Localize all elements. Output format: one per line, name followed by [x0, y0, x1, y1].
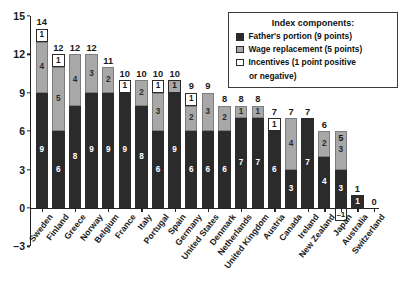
bar-segment-wage-replacement: 5 [52, 67, 64, 131]
bar-segment-wage-replacement: 1 [235, 106, 247, 119]
bar-norway[interactable]: 9312 [85, 54, 97, 208]
legend-item-fathers-portion: Father's portion (9 points) [236, 32, 390, 42]
bar-segment-fathers-portion: 8 [135, 106, 147, 208]
bar-total-label: 8 [239, 94, 244, 104]
bar-segment-incentives: 1 [185, 93, 197, 106]
bar-belgium[interactable]: 9211 [102, 67, 114, 208]
bar-segment-wage-replacement: 4 [36, 42, 48, 93]
bar-total-label: 10 [136, 69, 146, 79]
bar-australia[interactable]: 11 [351, 195, 363, 208]
bar-segment-wage-replacement: 2 [218, 106, 230, 132]
bar-total-label: 10 [169, 69, 179, 79]
legend-item-wage-replacement: Wage replacement (5 points) [236, 45, 390, 55]
bar-segment-wage-replacement: 2 [135, 80, 147, 106]
bar-segment-fathers-portion: 6 [52, 131, 64, 208]
bar-segment-incentives: 1 [36, 29, 48, 42]
bar-segment-incentives: 1 [52, 54, 64, 67]
bar-total-label: 8 [255, 94, 260, 104]
bar-segment-fathers-portion: 4 [318, 157, 330, 208]
bar-total-label: 9 [205, 81, 210, 91]
legend-label-wage-replacement: Wage replacement (5 points) [249, 45, 391, 55]
bar-sweden[interactable]: 94114 [36, 29, 48, 208]
bar-segment-fathers-portion: 6 [202, 131, 214, 208]
bar-segment-wage-replacement: 4 [69, 54, 81, 105]
bar-total-label: 10 [153, 69, 163, 79]
bar-segment-wage-replacement: 3 [152, 93, 164, 131]
paternity-leave-index-chart: 15129630–3 94114651128412931292119110821… [0, 0, 407, 290]
bar-germany[interactable]: 6219 [185, 93, 197, 208]
legend-swatch-wage-replacement-icon [236, 46, 244, 54]
bar-new-zealand[interactable]: 426 [318, 131, 330, 208]
bar-ireland[interactable]: 77 [301, 118, 313, 208]
bar-segment-wage-replacement: 4 [285, 118, 297, 169]
bar-greece[interactable]: 8412 [69, 54, 81, 208]
bar-total-label: 8 [222, 94, 227, 104]
bar-finland[interactable]: 65112 [52, 54, 64, 208]
legend-swatch-incentives-icon [236, 59, 244, 67]
bar-segment-fathers-portion: 9 [168, 93, 180, 208]
bar-segment-wage-replacement: 2 [318, 131, 330, 157]
bar-denmark[interactable]: 628 [218, 106, 230, 208]
bar-total-label: 5 [338, 133, 343, 143]
bar-canada[interactable]: 347 [285, 118, 297, 208]
bar-france[interactable]: 9110 [119, 80, 131, 208]
bar-segment-incentives: 1 [119, 80, 131, 93]
x-axis-category-labels: SwedenFinlandGreeceNorwayBelgiumFranceIt… [30, 212, 390, 290]
bar-total-label: 12 [86, 43, 96, 53]
legend-label-incentives: Incentives (1 point positive [249, 58, 391, 68]
bar-segment-fathers-portion: 7 [235, 118, 247, 208]
bar-total-label: 9 [189, 81, 194, 91]
bar-total-label: 7 [305, 107, 310, 117]
bar-segment-fathers-portion: 6 [185, 131, 197, 208]
bar-segment-incentives: 1 [168, 80, 180, 93]
bar-segment-fathers-portion: 6 [268, 131, 280, 208]
bar-segment-fathers-portion: 1 [351, 195, 363, 208]
bar-segment-wage-replacement: 3 [202, 93, 214, 131]
legend-title: Index components: [236, 18, 390, 28]
bar-segment-wage-replacement: 2 [185, 106, 197, 132]
bar-total-label: 1 [355, 184, 360, 194]
bar-italy[interactable]: 8210 [135, 80, 147, 208]
bar-segment-fathers-portion: 3 [285, 170, 297, 208]
bar-portugal[interactable]: 63110 [152, 80, 164, 208]
legend-swatch-fathers-portion-icon [236, 33, 244, 41]
bar-total-label: 10 [120, 69, 130, 79]
bar-total-label: 7 [272, 107, 277, 117]
bar-total-label: 12 [70, 43, 80, 53]
bar-japan[interactable]: 335 [335, 144, 347, 208]
bar-segment-fathers-portion: 6 [152, 131, 164, 208]
bar-segment-wage-replacement: 3 [85, 54, 97, 92]
legend-label-fathers-portion: Father's portion (9 points) [249, 32, 391, 42]
bar-segment-fathers-portion: 7 [301, 118, 313, 208]
bar-united-states[interactable]: 639 [202, 93, 214, 208]
bar-segment-wage-replacement: 2 [102, 67, 114, 93]
bar-total-label: 12 [53, 43, 63, 53]
legend-label-incentives-line2: or negative) [249, 71, 390, 81]
legend-item-incentives: Incentives (1 point positive [236, 58, 390, 68]
bar-segment-fathers-portion: 9 [36, 93, 48, 208]
bar-total-label: 7 [288, 107, 293, 117]
bar-total-label: 11 [103, 56, 113, 66]
bar-segment-wage-replacement: 1 [252, 106, 264, 119]
bar-segment-fathers-portion: 9 [102, 93, 114, 208]
chart-legend: Index components: Father's portion (9 po… [228, 12, 398, 88]
bar-segment-fathers-portion: 8 [69, 106, 81, 208]
bar-total-label: 6 [322, 120, 327, 130]
bar-spain[interactable]: 9110 [168, 80, 180, 208]
bar-netherlands[interactable]: 718 [235, 106, 247, 208]
bar-segment-fathers-portion: 6 [218, 131, 230, 208]
bar-segment-fathers-portion: 9 [85, 93, 97, 208]
bar-segment-incentives: 1 [152, 80, 164, 93]
bar-total-label: 0 [371, 197, 376, 207]
bar-segment-fathers-portion: 3 [335, 170, 347, 208]
bar-austria[interactable]: 617 [268, 118, 280, 208]
bar-united-kingdom[interactable]: 718 [252, 106, 264, 208]
bar-segment-fathers-portion: 9 [119, 93, 131, 208]
bar-segment-incentives: 1 [268, 118, 280, 131]
bar-total-label: 14 [37, 17, 47, 27]
bar-segment-fathers-portion: 7 [252, 118, 264, 208]
